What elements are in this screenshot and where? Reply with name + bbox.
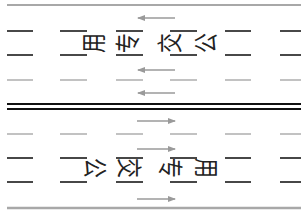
lower-bus-lane-text: 公交专用 <box>81 158 221 178</box>
upper-bus-lane-text: 公交专用 <box>80 33 221 53</box>
center-double-line <box>7 104 301 109</box>
lane-dashes <box>7 31 301 182</box>
bus-lane-char: 用 <box>192 158 221 178</box>
road-diagram: 公交专用 公交专用 <box>0 0 304 215</box>
bus-lane-char: 专 <box>156 158 185 178</box>
bus-lane-char: 公 <box>81 158 110 178</box>
bus-lane-char: 专 <box>114 33 143 53</box>
bus-lane-char: 交 <box>115 158 144 178</box>
bus-lane-char: 交 <box>156 33 185 53</box>
bus-lane-char: 用 <box>80 33 109 53</box>
bus-lane-char: 公 <box>192 33 221 53</box>
edge-lines <box>7 5 301 208</box>
